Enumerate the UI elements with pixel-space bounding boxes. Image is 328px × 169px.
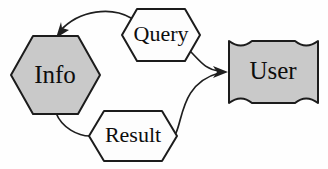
node-result[interactable]: Result (89, 111, 177, 161)
data-flow-diagram: Info Query Result User (0, 0, 328, 169)
edge-info-to-result (56, 113, 90, 136)
node-query[interactable]: Query (122, 9, 200, 61)
node-info[interactable]: Info (11, 36, 100, 114)
node-query-label: Query (134, 21, 189, 46)
arrowhead-into-user (213, 66, 228, 78)
edge-info-to-result-path (56, 113, 90, 136)
node-info-label: Info (34, 61, 76, 88)
edge-query-to-info (56, 11, 131, 38)
diagram-canvas: Info Query Result User (0, 0, 328, 169)
edge-result-to-user (176, 66, 228, 133)
node-result-label: Result (105, 122, 161, 147)
node-user-label: User (249, 57, 297, 84)
node-user[interactable]: User (229, 41, 318, 103)
edge-result-to-user-path (176, 73, 219, 133)
edge-query-to-info-path (60, 11, 131, 31)
